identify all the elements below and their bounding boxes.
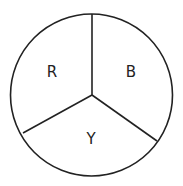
sector-label-y: Y bbox=[85, 130, 96, 148]
sector-label-b: B bbox=[126, 63, 136, 81]
divider-lower-left bbox=[23, 95, 92, 133]
divider-lower-right bbox=[92, 95, 157, 141]
sector-label-r: R bbox=[47, 63, 57, 81]
sector-diagram: R B Y bbox=[0, 0, 183, 186]
